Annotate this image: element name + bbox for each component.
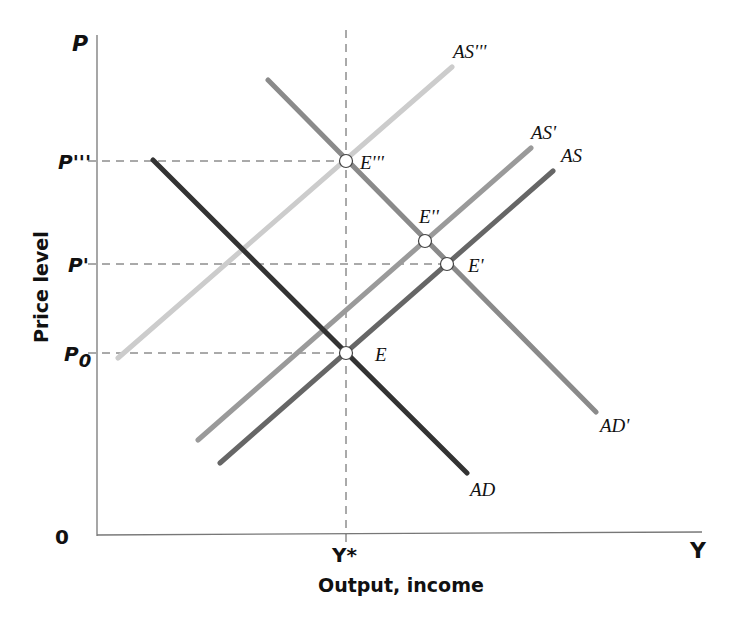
e2-label: E'' <box>418 206 440 227</box>
ad-label: AD <box>468 479 496 500</box>
origin-label: 0 <box>55 525 69 549</box>
as-label: AS <box>559 145 583 166</box>
e3-label: E''' <box>359 152 385 173</box>
y-axis-symbol: P <box>72 31 88 56</box>
as3-label: AS''' <box>451 41 487 62</box>
p0-tick-label: P0 <box>64 342 91 371</box>
p3-tick-label: P''' <box>58 150 91 174</box>
x-axis-title: Output, income <box>318 574 484 596</box>
equilibrium-e2-marker <box>419 235 432 248</box>
e1-label: E' <box>467 255 485 276</box>
ad-as-chart: P Y 0 Y* Output, income Price level P'''… <box>0 0 733 620</box>
as1-label: AS' <box>529 122 557 143</box>
ad1-label: AD' <box>598 415 630 436</box>
x-axis <box>97 532 702 535</box>
equilibrium-e1-marker <box>441 258 454 271</box>
e-label: E <box>374 344 387 365</box>
y-axis-title: Price level <box>30 231 52 343</box>
equilibrium-e-marker <box>340 347 353 360</box>
x-axis-symbol: Y <box>689 538 707 563</box>
equilibrium-e3-marker <box>340 155 353 168</box>
y-star-tick-label: Y* <box>331 543 357 567</box>
p1-tick-label: P' <box>68 253 89 277</box>
